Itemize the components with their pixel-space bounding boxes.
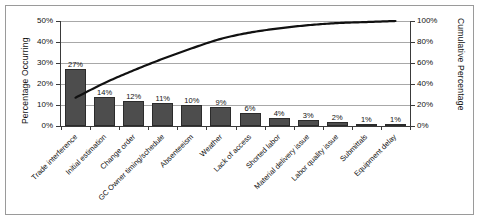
pareto-chart-figure: Percentage Occurring Cumulative Percenta… [0, 0, 481, 222]
y-axis-right-tick-label: 40% [417, 79, 445, 88]
y-axis-left-tick-label: 30% [27, 58, 53, 67]
y-axis-right-tick [411, 63, 415, 64]
x-axis-tick [352, 126, 353, 130]
x-axis-tick [381, 126, 382, 130]
y-axis-right-tick [411, 105, 415, 106]
y-axis-left-tick-label: 50% [27, 16, 53, 25]
y-axis-right-tick-label: 60% [417, 58, 445, 67]
x-axis-tick [90, 126, 91, 130]
y-axis-left-tick [56, 84, 60, 85]
y-axis-right-tick [411, 21, 415, 22]
y-axis-right-tick-label: 100% [417, 16, 445, 25]
y-axis-left-tick-label: 40% [27, 37, 53, 46]
y-axis-left-tick [56, 105, 60, 106]
y-axis-right-title: Cumulative Percentage [456, 18, 466, 111]
x-axis-tick [119, 126, 120, 130]
x-axis-tick [236, 126, 237, 130]
x-axis-tick [61, 126, 62, 130]
y-axis-left-tick-label: 20% [27, 79, 53, 88]
x-axis-tick [206, 126, 207, 130]
x-axis-tick [265, 126, 266, 130]
x-axis-tick [410, 126, 411, 130]
x-axis-tick [148, 126, 149, 130]
y-axis-left-tick-label: 0% [27, 121, 53, 130]
y-axis-right-tick-label: 80% [417, 37, 445, 46]
x-axis-tick [323, 126, 324, 130]
y-axis-left-tick [56, 42, 60, 43]
y-axis-right-tick [411, 42, 415, 43]
y-axis-right-tick [411, 84, 415, 85]
y-axis-right-tick-label: 0% [417, 121, 445, 130]
y-axis-right-tick [411, 126, 415, 127]
y-axis-left-tick [56, 21, 60, 22]
cumulative-line-series [61, 21, 410, 126]
plot-area: 0%10%20%30%40%50% 0%20%40%60%80%100% 27%… [61, 21, 410, 126]
y-axis-left-tick-label: 10% [27, 100, 53, 109]
y-axis-left-tick [56, 63, 60, 64]
y-axis-right-line [410, 21, 411, 127]
y-axis-left-tick [56, 126, 60, 127]
y-axis-right-tick-label: 20% [417, 100, 445, 109]
x-axis-tick [177, 126, 178, 130]
x-axis-tick [294, 126, 295, 130]
